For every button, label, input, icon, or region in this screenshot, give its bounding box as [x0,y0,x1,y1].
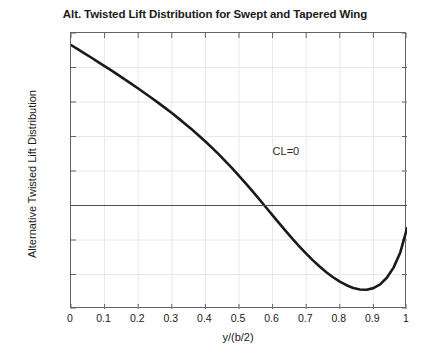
gridlines [71,33,407,309]
x-axis-label: y/(b/2) [70,331,406,343]
plot-svg [71,33,407,309]
chart-annotation: CL=0 [273,145,300,157]
x-tick-label: 1 [381,312,430,324]
y-axis-label: Alternative Twisted Lift Distribution [26,44,38,304]
plot-area: CL=0 [70,32,406,308]
chart-title: Alt. Twisted Lift Distribution for Swept… [0,8,430,20]
figure: Alt. Twisted Lift Distribution for Swept… [0,0,430,360]
